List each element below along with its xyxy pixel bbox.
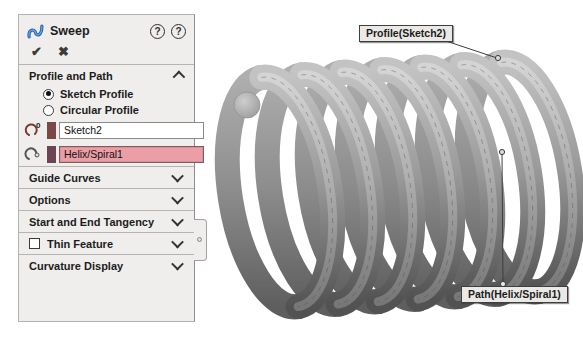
graphics-viewport: Profile(Sketch2) Path(Helix/Spiral1) xyxy=(0,0,583,337)
solidworks-window: Sweep ? ? ✔ ✖ Profile and Path Sketch Pr… xyxy=(0,0,583,337)
profile-callout[interactable]: Profile(Sketch2) xyxy=(359,25,453,42)
path-callout[interactable]: Path(Helix/Spiral1) xyxy=(461,286,568,303)
